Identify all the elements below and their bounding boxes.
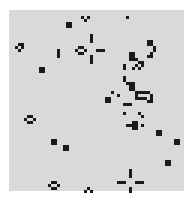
- live-cell[interactable]: [33, 118, 36, 121]
- live-cell[interactable]: [84, 19, 87, 22]
- live-cell[interactable]: [57, 55, 60, 58]
- live-cell[interactable]: [177, 142, 180, 145]
- live-cell[interactable]: [150, 55, 153, 58]
- live-cell[interactable]: [129, 190, 132, 193]
- live-cell[interactable]: [66, 148, 69, 151]
- live-cell[interactable]: [138, 67, 141, 70]
- live-cell[interactable]: [129, 103, 132, 106]
- live-cell[interactable]: [84, 190, 87, 193]
- live-cell[interactable]: [90, 40, 93, 43]
- live-cell[interactable]: [123, 112, 126, 115]
- live-cell[interactable]: [168, 163, 171, 166]
- live-cell[interactable]: [57, 184, 60, 187]
- live-cell[interactable]: [150, 100, 153, 103]
- live-cell[interactable]: [42, 70, 45, 73]
- live-cell[interactable]: [108, 100, 111, 103]
- live-cell[interactable]: [90, 190, 93, 193]
- live-cell[interactable]: [54, 187, 57, 190]
- game-board[interactable]: [9, 10, 184, 191]
- live-cell[interactable]: [102, 49, 105, 52]
- live-cell[interactable]: [117, 94, 120, 97]
- live-cell[interactable]: [90, 61, 93, 64]
- live-cell[interactable]: [135, 127, 138, 130]
- live-cell[interactable]: [129, 175, 132, 178]
- live-cell[interactable]: [123, 67, 126, 70]
- live-cell[interactable]: [81, 52, 84, 55]
- live-cell[interactable]: [21, 46, 24, 49]
- live-cell[interactable]: [153, 49, 156, 52]
- live-cell[interactable]: [30, 121, 33, 124]
- live-cell[interactable]: [159, 133, 162, 136]
- live-cell[interactable]: [132, 67, 135, 70]
- live-cell[interactable]: [123, 181, 126, 184]
- live-cell[interactable]: [84, 49, 87, 52]
- live-cell[interactable]: [69, 25, 72, 28]
- live-cell[interactable]: [111, 91, 114, 94]
- live-cell[interactable]: [126, 16, 129, 19]
- live-cell[interactable]: [87, 16, 90, 19]
- live-cell[interactable]: [18, 49, 21, 52]
- live-cell[interactable]: [141, 115, 144, 118]
- live-cell[interactable]: [141, 64, 144, 67]
- live-cell[interactable]: [141, 181, 144, 184]
- live-cell[interactable]: [141, 124, 144, 127]
- live-cell[interactable]: [54, 142, 57, 145]
